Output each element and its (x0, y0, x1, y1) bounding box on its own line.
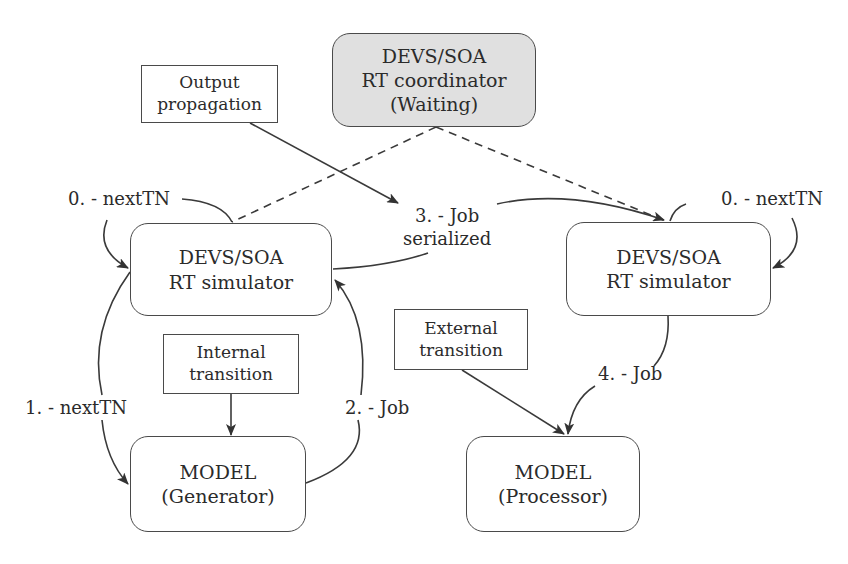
arrow-job-2-up (335, 280, 363, 395)
arrow-left-next-tn-0-in (104, 220, 128, 268)
right-simulator-line-2: RT simulator (606, 269, 730, 293)
left-simulator-line-1: DEVS/SOA (179, 245, 284, 269)
arrow-job-4 (654, 316, 668, 366)
model-processor-line-2: (Processor) (498, 484, 608, 508)
arrow-job-2 (306, 420, 359, 483)
edge-label-left-next-tn-0: 0. - nextTN (68, 188, 170, 211)
edge-label-right-next-tn-0: 0. - nextTN (721, 188, 823, 211)
left-simulator-line-2: RT simulator (169, 270, 293, 294)
external-transition-line-2: transition (419, 340, 503, 362)
job-serialized-line-2: serialized (403, 228, 491, 251)
arrow-job-serialized-from-left (333, 253, 428, 269)
devs-soa-diagram: DEVS/SOA RT coordinator (Waiting) Output… (0, 0, 848, 564)
internal-transition-line-1: Internal (196, 342, 265, 364)
coordinator-node: DEVS/SOA RT coordinator (Waiting) (332, 33, 536, 127)
arrow-right-next-tn-0 (670, 204, 686, 221)
output-propagation-line-2: propagation (157, 94, 262, 116)
arrow-next-tn-1-in (102, 420, 128, 484)
left-simulator-node: DEVS/SOA RT simulator (130, 223, 332, 316)
edge-label-job-4: 4. - Job (598, 363, 662, 386)
arrow-external-transition (462, 370, 564, 434)
arrow-left-next-tn-0 (182, 199, 232, 222)
external-transition-node: External transition (394, 309, 528, 370)
coordinator-line-2: RT coordinator (361, 68, 506, 92)
arrow-right-next-tn-0-in (773, 218, 797, 268)
external-transition-line-1: External (424, 318, 498, 340)
internal-transition-node: Internal transition (163, 334, 299, 394)
model-processor-line-1: MODEL (515, 460, 592, 484)
right-simulator-line-1: DEVS/SOA (616, 245, 721, 269)
output-propagation-node: Output propagation (141, 65, 278, 123)
right-simulator-node: DEVS/SOA RT simulator (566, 222, 771, 316)
model-generator-line-2: (Generator) (161, 484, 274, 508)
arrow-next-tn-1 (99, 272, 131, 395)
arrow-job-serialized-to-right (497, 199, 664, 220)
edge-label-job-2: 2. - Job (345, 397, 409, 420)
internal-transition-line-2: transition (189, 364, 273, 386)
model-generator-node: MODEL (Generator) (130, 436, 306, 532)
model-processor-node: MODEL (Processor) (466, 436, 640, 532)
job-serialized-line-1: 3. - Job (403, 205, 491, 228)
arrow-job-4-in (568, 386, 595, 434)
edge-label-job-serialized-3: 3. - Job serialized (403, 205, 491, 250)
edge-label-next-tn-1: 1. - nextTN (25, 397, 127, 420)
arrow-output-propagation (250, 123, 398, 203)
model-generator-line-1: MODEL (180, 460, 257, 484)
coordinator-line-3: (Waiting) (390, 92, 478, 116)
output-propagation-line-1: Output (179, 72, 239, 94)
coordinator-line-1: DEVS/SOA (382, 44, 487, 68)
